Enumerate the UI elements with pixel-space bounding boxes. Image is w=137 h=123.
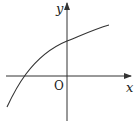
origin-label: O	[54, 79, 64, 93]
x-axis-label: x	[126, 80, 134, 95]
y-axis-label: y	[55, 1, 64, 16]
function-curve	[7, 25, 109, 107]
function-graph: y x O	[0, 0, 137, 123]
